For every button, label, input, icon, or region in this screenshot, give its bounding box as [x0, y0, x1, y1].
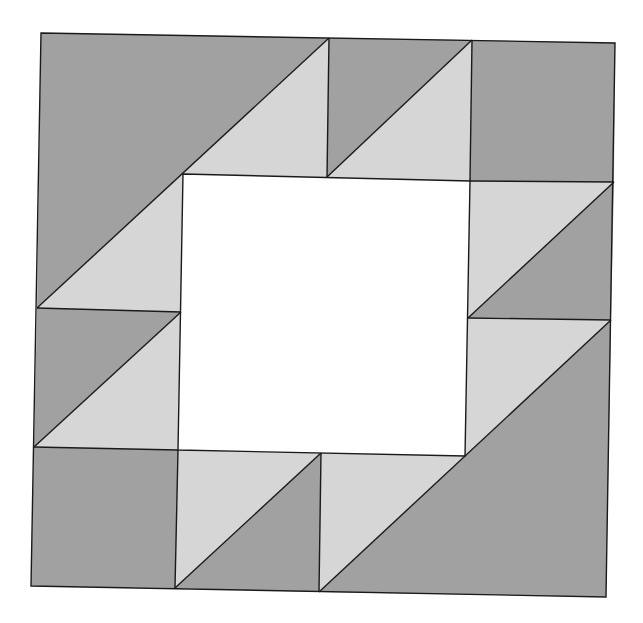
top-right-square — [470, 40, 615, 182]
center-square — [178, 174, 470, 456]
quilt-block-diagram — [0, 0, 643, 623]
bottom-left-square — [31, 447, 178, 588]
